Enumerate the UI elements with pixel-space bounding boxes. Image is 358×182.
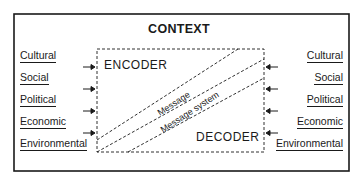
arrow-right-icon (83, 109, 95, 114)
right-factor-economic: Economic (297, 115, 343, 129)
context-title: CONTEXT (0, 22, 358, 36)
arrow-right-icon (83, 65, 95, 70)
arrow-left-icon (266, 109, 278, 114)
context-diagram: Message Message system CONTEXT ENCODER D… (0, 0, 358, 182)
left-arrows (83, 65, 95, 136)
arrow-right-icon (83, 131, 95, 136)
decoder-label: DECODER (196, 130, 260, 144)
right-factor-political: Political (307, 93, 343, 107)
left-factor-cultural: Cultural (20, 49, 56, 63)
right-factor-social: Social (314, 71, 343, 85)
right-factor-cultural: Cultural (307, 49, 343, 63)
arrow-left-icon (266, 131, 278, 136)
arrow-left-icon (266, 65, 278, 70)
encoder-label: ENCODER (104, 58, 168, 72)
right-factor-environmental: Environmental (276, 137, 343, 151)
left-factor-political: Political (20, 93, 56, 107)
right-arrows (266, 65, 278, 136)
left-factor-economic: Economic (20, 115, 66, 129)
arrow-left-icon (266, 87, 278, 92)
left-factor-social: Social (20, 71, 49, 85)
arrow-right-icon (83, 87, 95, 92)
left-factor-environmental: Environmental (20, 137, 87, 151)
